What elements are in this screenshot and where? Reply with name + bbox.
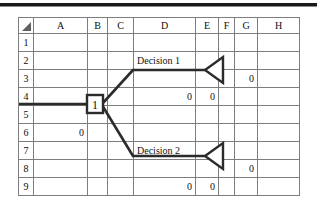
- cell-d1[interactable]: [134, 34, 196, 52]
- cell-h3[interactable]: [258, 70, 300, 88]
- cell-c7[interactable]: [108, 142, 134, 160]
- cell-g8-value: 0: [235, 160, 257, 177]
- cell-d2[interactable]: Decision 1: [134, 52, 196, 70]
- cell-d6[interactable]: [134, 124, 196, 142]
- cell-c5[interactable]: [108, 106, 134, 124]
- cell-a2[interactable]: [34, 52, 88, 70]
- cell-e9[interactable]: 0: [196, 178, 219, 196]
- table-row: 9 0 0: [19, 178, 300, 196]
- cell-h1[interactable]: [258, 34, 300, 52]
- cell-e6[interactable]: [196, 124, 219, 142]
- cell-c6[interactable]: [108, 124, 134, 142]
- cell-f4[interactable]: [219, 88, 235, 106]
- cell-e5[interactable]: [196, 106, 219, 124]
- row-header-2[interactable]: 2: [19, 52, 34, 70]
- cell-b4[interactable]: [88, 88, 108, 106]
- column-header-c[interactable]: C: [108, 18, 134, 34]
- cell-c8[interactable]: [108, 160, 134, 178]
- cell-c3[interactable]: [108, 70, 134, 88]
- cell-e7[interactable]: [196, 142, 219, 160]
- cell-a8[interactable]: [34, 160, 88, 178]
- cell-d9[interactable]: 0: [134, 178, 196, 196]
- cell-a9[interactable]: [34, 178, 88, 196]
- column-header-f[interactable]: F: [219, 18, 235, 34]
- cell-d4[interactable]: 0: [134, 88, 196, 106]
- cell-h8[interactable]: [258, 160, 300, 178]
- column-header-h[interactable]: H: [258, 18, 300, 34]
- cell-a7[interactable]: [34, 142, 88, 160]
- cell-e2[interactable]: [196, 52, 219, 70]
- cell-f6[interactable]: [219, 124, 235, 142]
- column-header-row: A B C D E F G H: [19, 18, 300, 34]
- column-header-d[interactable]: D: [134, 18, 196, 34]
- top-divider-rule-shadow: [0, 6, 317, 7]
- cell-a1[interactable]: [34, 34, 88, 52]
- cell-a4[interactable]: [34, 88, 88, 106]
- cell-g8[interactable]: 0: [235, 160, 258, 178]
- cell-d9-value: 0: [134, 178, 195, 195]
- table-row: 8 0: [19, 160, 300, 178]
- cell-b5[interactable]: [88, 106, 108, 124]
- row-header-5[interactable]: 5: [19, 106, 34, 124]
- cell-e3[interactable]: [196, 70, 219, 88]
- cell-b9[interactable]: [88, 178, 108, 196]
- cell-d5[interactable]: [134, 106, 196, 124]
- cell-g2[interactable]: [235, 52, 258, 70]
- cell-f9[interactable]: [219, 178, 235, 196]
- cell-h7[interactable]: [258, 142, 300, 160]
- cell-f7[interactable]: [219, 142, 235, 160]
- cell-d7[interactable]: Decision 2: [134, 142, 196, 160]
- cell-b8[interactable]: [88, 160, 108, 178]
- column-header-e[interactable]: E: [196, 18, 219, 34]
- table-row: 6 0: [19, 124, 300, 142]
- cell-c4[interactable]: [108, 88, 134, 106]
- cell-g1[interactable]: [235, 34, 258, 52]
- cell-d7-value: Decision 2: [134, 142, 195, 159]
- cell-g6[interactable]: [235, 124, 258, 142]
- cell-b6[interactable]: [88, 124, 108, 142]
- row-header-6[interactable]: 6: [19, 124, 34, 142]
- cell-g3-value: 0: [235, 70, 257, 87]
- row-header-1[interactable]: 1: [19, 34, 34, 52]
- row-header-3[interactable]: 3: [19, 70, 34, 88]
- cell-e8[interactable]: [196, 160, 219, 178]
- cell-g9[interactable]: [235, 178, 258, 196]
- row-header-7[interactable]: 7: [19, 142, 34, 160]
- cell-a5[interactable]: [34, 106, 88, 124]
- cell-c2[interactable]: [108, 52, 134, 70]
- cell-g7[interactable]: [235, 142, 258, 160]
- cell-b3[interactable]: [88, 70, 108, 88]
- cell-f3[interactable]: [219, 70, 235, 88]
- cell-e1[interactable]: [196, 34, 219, 52]
- cell-b7[interactable]: [88, 142, 108, 160]
- cell-a3[interactable]: [34, 70, 88, 88]
- cell-d8[interactable]: [134, 160, 196, 178]
- cell-g5[interactable]: [235, 106, 258, 124]
- cell-h2[interactable]: [258, 52, 300, 70]
- cell-b2[interactable]: [88, 52, 108, 70]
- cell-g3[interactable]: 0: [235, 70, 258, 88]
- cell-f2[interactable]: [219, 52, 235, 70]
- column-header-a[interactable]: A: [34, 18, 88, 34]
- column-header-b[interactable]: B: [88, 18, 108, 34]
- cell-c9[interactable]: [108, 178, 134, 196]
- column-header-g[interactable]: G: [235, 18, 258, 34]
- cell-g4[interactable]: [235, 88, 258, 106]
- cell-h4[interactable]: [258, 88, 300, 106]
- cell-f1[interactable]: [219, 34, 235, 52]
- cell-h9[interactable]: [258, 178, 300, 196]
- cell-e4-value: 0: [196, 88, 218, 105]
- cell-b1[interactable]: [88, 34, 108, 52]
- cell-d3[interactable]: [134, 70, 196, 88]
- cell-c1[interactable]: [108, 34, 134, 52]
- cell-f8[interactable]: [219, 160, 235, 178]
- cell-h6[interactable]: [258, 124, 300, 142]
- select-all-corner[interactable]: [19, 18, 34, 34]
- row-header-8[interactable]: 8: [19, 160, 34, 178]
- cell-h5[interactable]: [258, 106, 300, 124]
- cell-e4[interactable]: 0: [196, 88, 219, 106]
- row-header-4[interactable]: 4: [19, 88, 34, 106]
- cell-f5[interactable]: [219, 106, 235, 124]
- row-header-9[interactable]: 9: [19, 178, 34, 196]
- cell-a6[interactable]: 0: [34, 124, 88, 142]
